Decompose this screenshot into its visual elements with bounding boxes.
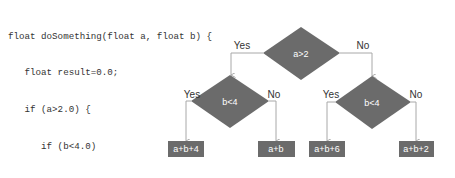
- right-yes-label: Yes: [323, 89, 339, 100]
- root-yes-label: Yes: [234, 40, 250, 51]
- right-decision-label: b<4: [364, 98, 379, 108]
- leaf-node-2: a+b: [258, 141, 295, 157]
- edge-root-no: [340, 53, 372, 76]
- leaf-label: a+b+4: [173, 144, 199, 154]
- edge-left-no: [269, 101, 276, 141]
- right-decision-node: b<4: [335, 76, 411, 129]
- leaf-node-3: a+b+6: [309, 141, 345, 157]
- edge-root-yes: [231, 53, 263, 75]
- edge-left-yes: [186, 101, 191, 141]
- edge-right-yes: [327, 102, 335, 141]
- left-yes-label: Yes: [184, 89, 200, 100]
- left-decision-label: b<4: [222, 97, 237, 107]
- leaf-label: a+b+6: [314, 144, 340, 154]
- right-no-label: No: [410, 89, 423, 100]
- root-decision-label: a>2: [293, 49, 308, 59]
- leaf-label: a+b+2: [403, 144, 429, 154]
- left-no-label: No: [268, 89, 281, 100]
- leaf-node-1: a+b+4: [168, 141, 204, 157]
- leaf-node-4: a+b+2: [399, 141, 434, 157]
- decision-tree-diagram: a>2 Yes No b<4 Yes No b<4 Yes No a+b+4 a…: [0, 0, 455, 178]
- left-decision-node: b<4: [191, 75, 269, 128]
- edge-right-no: [411, 102, 416, 141]
- root-no-label: No: [357, 40, 370, 51]
- root-decision-node: a>2: [263, 27, 340, 80]
- leaf-label: a+b: [268, 144, 283, 154]
